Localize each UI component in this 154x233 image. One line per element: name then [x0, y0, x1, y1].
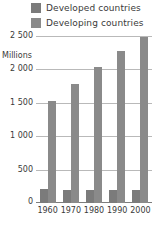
bar-developing-1990: [117, 51, 125, 203]
y-axis-title: Millions: [2, 52, 32, 60]
x-tick-1970: 1970: [59, 206, 82, 215]
x-axis-labels: 1960 1970 1980 1990 2000: [36, 206, 152, 215]
bar-group-1960: [36, 36, 59, 203]
bar-group-1970: [59, 36, 82, 203]
y-tick-2000: 2 000: [10, 65, 33, 73]
bar-developed-1990: [109, 190, 117, 203]
y-tick-0: 0: [28, 198, 33, 206]
legend-item-developed: Developed countries: [31, 1, 153, 15]
bar-group-1980: [82, 36, 105, 203]
legend-swatch-developed-icon: [31, 3, 41, 13]
bar-developed-1980: [86, 190, 94, 203]
bar-group-1990: [106, 36, 129, 203]
bar-developed-2000: [132, 190, 140, 203]
y-tick-1000: 1 000: [10, 132, 33, 140]
bar-developing-1970: [71, 84, 79, 203]
bar-group-2000: [129, 36, 152, 203]
bar-developed-1960: [40, 189, 48, 203]
y-tick-1500: 1 500: [10, 99, 33, 107]
x-tick-2000: 2000: [129, 206, 152, 215]
bar-developing-1960: [48, 101, 56, 203]
legend-label-developing: Developing countries: [46, 18, 144, 28]
bar-developing-2000: [140, 37, 148, 203]
plot-area: 2 500 2 000 1 500 1 000 500 0: [36, 36, 152, 203]
bar-series-container: [36, 36, 152, 203]
bar-developing-1980: [94, 67, 102, 203]
legend-label-developed: Developed countries: [46, 3, 141, 13]
y-tick-2500: 2 500: [10, 32, 33, 40]
x-tick-1980: 1980: [82, 206, 105, 215]
legend-swatch-developing-icon: [31, 18, 41, 28]
y-tick-500: 500: [18, 166, 33, 174]
x-tick-1990: 1990: [106, 206, 129, 215]
x-tick-1960: 1960: [36, 206, 59, 215]
legend-item-developing: Developing countries: [31, 16, 153, 30]
chart-legend: Developed countries Developing countries: [31, 1, 153, 31]
bar-developed-1970: [63, 190, 71, 203]
bar-chart: Developed countries Developing countries…: [0, 0, 154, 233]
